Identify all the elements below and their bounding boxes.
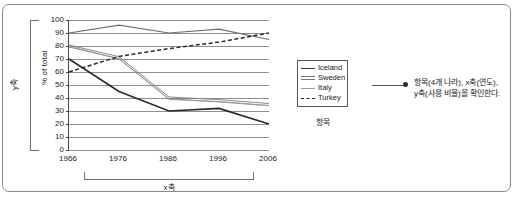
- annotation-line-1: 항목(4개 나라), x축(연도),: [414, 77, 510, 88]
- y-axis-tick-label: 60: [55, 68, 64, 76]
- y-axis-tick-label: 30: [55, 107, 64, 115]
- y-axis-tick-label: 0: [60, 146, 64, 154]
- x-axis-tick-label: 1986: [159, 154, 177, 163]
- x-axis-tick-label: 1996: [209, 154, 227, 163]
- y-axis-tick-label: 20: [55, 120, 64, 128]
- y-axis-tick-label: 80: [55, 42, 64, 50]
- gridline: [69, 150, 269, 151]
- legend: IcelandSwedenItalyTurkey: [297, 60, 348, 107]
- legend-label: Iceland: [318, 63, 342, 73]
- x-axis-bracket-label: x축: [84, 181, 254, 192]
- legend-item-italy: Italy: [301, 83, 344, 93]
- y-axis-tick-label: 40: [55, 94, 64, 102]
- series-line-iceland: [69, 25, 269, 39]
- legend-caption: 항목: [297, 116, 348, 127]
- annotation-line-2: y축(사용 비율)을 확인한다.: [414, 88, 510, 99]
- legend-label: Turkey: [318, 93, 341, 103]
- annotation-connector-line: [372, 85, 404, 86]
- y-axis-tick-label: 70: [55, 55, 64, 63]
- legend-swatch-icon: [301, 64, 315, 72]
- x-axis-tick-label: 2006: [259, 154, 277, 163]
- series-line-turkey: [69, 33, 269, 72]
- legend-label: Italy: [318, 83, 332, 93]
- legend-label: Sweden: [318, 73, 345, 83]
- y-axis-title: % of total: [40, 51, 49, 85]
- y-axis-tick-label: 90: [55, 29, 64, 37]
- x-axis-bracket: [84, 172, 254, 180]
- legend-item-iceland: Iceland: [301, 63, 344, 73]
- y-axis-tick-label: 10: [55, 133, 64, 141]
- y-axis-tick-mark: [66, 150, 69, 151]
- legend-swatch-icon: [301, 84, 315, 92]
- x-axis-tick-label: 1966: [59, 154, 77, 163]
- annotation-bullet: [403, 82, 408, 87]
- series-line-iceland-solid-black: [69, 59, 269, 124]
- plot-area: 0102030405060708090100: [68, 20, 269, 151]
- chart-panel: y축 % of total 0102030405060708090100 196…: [0, 0, 340, 199]
- y-axis-tick-label: 100: [51, 16, 64, 24]
- y-axis-bracket: [30, 20, 39, 151]
- legend-item-turkey: Turkey: [301, 93, 344, 103]
- annotation-text: 항목(4개 나라), x축(연도), y축(사용 비율)을 확인한다.: [414, 77, 510, 99]
- legend-item-sweden: Sweden: [301, 73, 344, 83]
- legend-swatch-icon: [301, 94, 315, 102]
- y-axis-tick-label: 50: [55, 81, 64, 89]
- x-axis-tick-label: 1976: [109, 154, 127, 163]
- legend-swatch-icon: [301, 74, 315, 82]
- y-axis-bracket-label: y축: [8, 79, 19, 90]
- series-lines: [69, 20, 269, 150]
